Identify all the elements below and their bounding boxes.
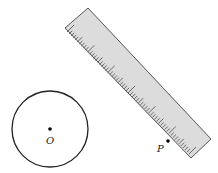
circle-o: O [12, 91, 88, 167]
point-p: P [156, 139, 170, 154]
label-p: P [156, 143, 164, 154]
label-o: O [46, 135, 54, 146]
geometry-figure: O P [0, 0, 218, 173]
center-point-o [48, 127, 52, 131]
